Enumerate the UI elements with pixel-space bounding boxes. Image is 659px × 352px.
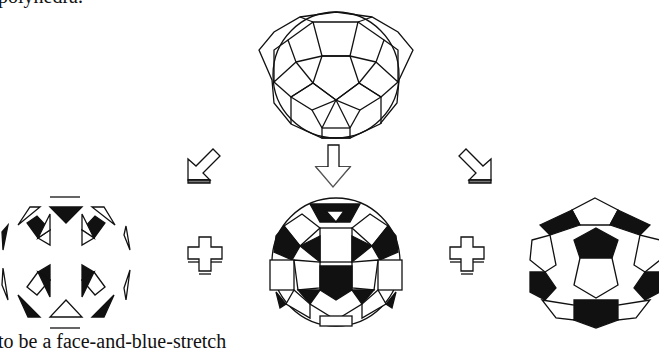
plus-icon-right bbox=[448, 235, 488, 275]
bottom-caption-fragment: to be a face-and-blue-stretch bbox=[0, 330, 226, 352]
arrow-down-left-icon bbox=[186, 145, 226, 185]
right-soccer-polyhedron bbox=[500, 180, 659, 330]
arrow-down-right-icon bbox=[455, 145, 495, 185]
plus-icon-left bbox=[186, 235, 226, 275]
left-triangles-polyhedron bbox=[0, 190, 140, 340]
center-shaded-polyhedron bbox=[240, 180, 420, 330]
